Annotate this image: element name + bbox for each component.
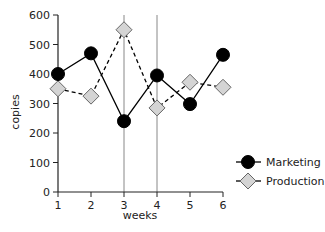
diamond-marker: [215, 79, 231, 95]
line-chart: 0100200300400500600123456 MarketingProdu…: [0, 0, 325, 232]
diamond-marker: [83, 88, 99, 104]
y-tick-label: 600: [29, 9, 50, 22]
legend-item-marketing: Marketing: [236, 156, 321, 170]
axes: 0100200300400500600123456: [29, 9, 227, 212]
y-tick-label: 0: [43, 186, 50, 199]
circle-marker: [184, 98, 197, 111]
legend-label: Production: [266, 175, 325, 188]
x-tick-label: 5: [187, 199, 194, 212]
circle-marker: [217, 48, 230, 61]
circle-marker: [52, 68, 65, 81]
legend-diamond-icon: [240, 173, 256, 189]
series-marketing: [52, 47, 230, 128]
legend-item-production: Production: [236, 173, 325, 189]
y-tick-label: 500: [29, 39, 50, 52]
series-line: [58, 53, 223, 121]
y-tick-label: 100: [29, 157, 50, 170]
x-tick-label: 1: [55, 199, 62, 212]
diamond-marker: [182, 74, 198, 90]
diamond-marker: [116, 22, 132, 38]
x-tick-label: 2: [88, 199, 95, 212]
diamond-marker: [149, 100, 165, 116]
y-tick-label: 300: [29, 98, 50, 111]
diamond-marker: [50, 81, 66, 97]
y-tick-label: 200: [29, 127, 50, 140]
x-axis-label: weeks: [123, 209, 158, 222]
circle-marker: [151, 69, 164, 82]
series-production: [50, 22, 231, 116]
legend-label: Marketing: [266, 156, 321, 169]
y-axis-label: copies: [9, 94, 22, 130]
x-tick-label: 6: [220, 199, 227, 212]
circle-marker: [118, 115, 131, 128]
legend-circle-icon: [242, 156, 255, 169]
legend: MarketingProduction: [236, 156, 325, 190]
series-layer: [50, 22, 231, 128]
y-tick-label: 400: [29, 68, 50, 81]
circle-marker: [85, 47, 98, 60]
